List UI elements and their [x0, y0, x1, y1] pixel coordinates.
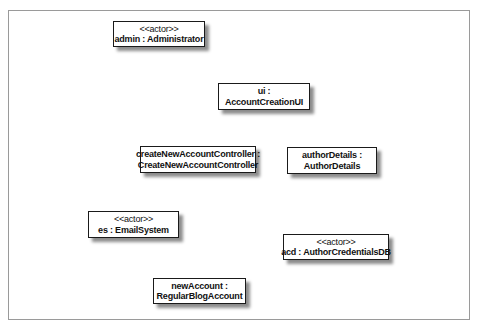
object-name: acd : AuthorCredentialsDB — [281, 247, 391, 258]
object-authordetails: authorDetails : AuthorDetails — [287, 147, 377, 174]
object-name: authorDetails : — [302, 150, 362, 161]
object-newaccount-regularblogaccount: newAccount : RegularBlogAccount — [153, 278, 246, 304]
object-acd-authorcredentialsdb: <<actor>> acd : AuthorCredentialsDB — [283, 234, 389, 260]
object-createnewaccountcontroller: createNewAccountController : CreateNewAc… — [140, 146, 256, 173]
object-es-emailsystem: <<actor>> es : EmailSystem — [88, 211, 179, 238]
object-name: ui : — [258, 86, 271, 97]
stereotype-label: <<actor>> — [114, 214, 153, 225]
object-name: admin : Administrator — [115, 34, 204, 45]
object-ui-accountcreationui: ui : AccountCreationUI — [218, 83, 310, 110]
object-class: RegularBlogAccount — [157, 291, 243, 302]
stereotype-label: <<actor>> — [139, 24, 178, 35]
object-class: CreateNewAccountController — [138, 160, 258, 171]
object-name: createNewAccountController : — [136, 149, 260, 160]
object-name: newAccount : — [171, 281, 228, 292]
object-admin-administrator: <<actor>> admin : Administrator — [113, 21, 205, 47]
stereotype-label: <<actor>> — [316, 237, 355, 248]
object-class: AccountCreationUI — [225, 97, 303, 108]
object-name: es : EmailSystem — [98, 225, 169, 236]
object-class: AuthorDetails — [304, 161, 360, 172]
